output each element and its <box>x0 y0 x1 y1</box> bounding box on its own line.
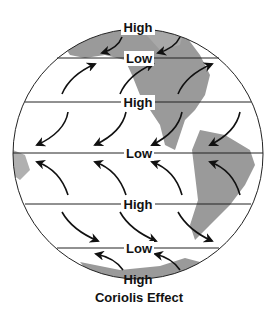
diagram-caption: Coriolis Effect <box>0 290 278 305</box>
label-south-60-low: Low <box>126 241 153 256</box>
south-america-land <box>190 130 255 240</box>
west-landmass <box>13 150 30 180</box>
label-equator-low: Low <box>126 146 153 161</box>
north-america-land <box>60 28 210 150</box>
coriolis-globe-diagram: High Low High Low High Low High <box>0 0 278 313</box>
label-north-60-low: Low <box>126 51 153 66</box>
pressure-labels: High Low High Low High Low High <box>121 20 155 287</box>
label-south-pole-high: High <box>124 272 153 287</box>
label-north-30-high: High <box>124 95 153 110</box>
label-south-30-high: High <box>124 197 153 212</box>
label-north-pole-high: High <box>124 20 153 35</box>
